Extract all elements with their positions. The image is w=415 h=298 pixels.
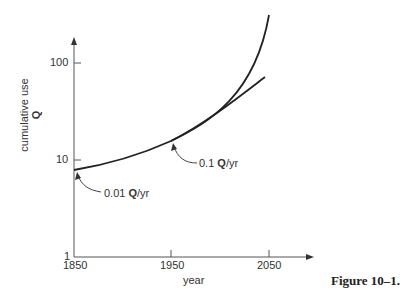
- x-axis-arrow-icon: [306, 254, 314, 260]
- annotation-arrow-icon: [75, 172, 81, 180]
- y-axis-title-q: Q: [30, 70, 42, 160]
- y-tick-label: 10: [56, 153, 68, 165]
- chart-plot: [0, 0, 415, 298]
- x-tick-label: 2050: [257, 259, 281, 271]
- figure-caption: Figure 10–1.: [331, 273, 400, 289]
- y-axis-arrow-icon: [71, 37, 77, 45]
- y-axis-title: cumulative use Q: [18, 70, 42, 160]
- annotation-low-growth: 0.01 Q/yr: [104, 187, 149, 199]
- annotation-value: 0.1: [199, 157, 217, 169]
- annotation-unit: /yr: [226, 157, 238, 169]
- annotation-q: Q: [128, 187, 137, 199]
- annotation-high-growth: 0.1 Q/yr: [199, 157, 238, 169]
- x-tick-label: 1950: [160, 259, 184, 271]
- x-tick-label: 1850: [63, 259, 87, 271]
- x-axis-title: year: [183, 274, 204, 286]
- y-tick-label: 100: [50, 56, 68, 68]
- y-axis-title-line: cumulative use: [18, 70, 30, 160]
- exponential-curve: [74, 15, 269, 170]
- annotation-arrow-icon: [171, 143, 177, 151]
- linear-curve: [171, 77, 265, 141]
- annotation-unit: /yr: [137, 187, 149, 199]
- annotation-q: Q: [217, 157, 226, 169]
- annotation-value: 0.01: [104, 187, 128, 199]
